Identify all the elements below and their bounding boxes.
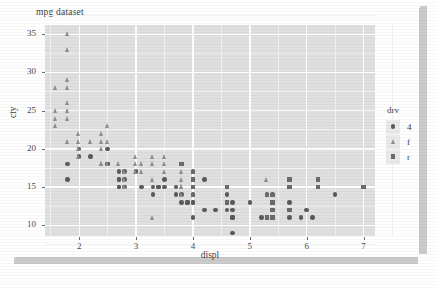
data-point [151, 192, 156, 197]
data-point [162, 161, 166, 166]
data-point [202, 177, 207, 182]
data-point [65, 139, 69, 144]
legend-key-circle-icon [386, 120, 400, 134]
x-axis-title: displ [45, 250, 375, 260]
data-point [270, 193, 274, 197]
x-tick-mark [364, 237, 365, 240]
x-tick-mark [136, 237, 137, 240]
data-point [191, 215, 196, 220]
data-point [99, 139, 103, 144]
data-point [65, 47, 69, 52]
y-tick-mark [42, 72, 45, 73]
data-point [225, 208, 230, 213]
legend-entry-4[interactable]: 4 [386, 119, 430, 134]
legend-entry-f[interactable]: f [386, 134, 430, 149]
data-point [117, 177, 122, 182]
data-point [179, 162, 183, 166]
y-gridline-major [45, 186, 375, 187]
x-tick-mark [307, 237, 308, 240]
data-point [133, 154, 137, 159]
data-point [191, 185, 195, 189]
data-point [185, 200, 190, 205]
data-point [230, 200, 235, 205]
x-gridline-minor [221, 25, 222, 236]
data-point [88, 154, 93, 159]
data-point [65, 77, 69, 82]
data-point [287, 208, 291, 212]
y-tick-label: 35 [18, 28, 36, 38]
data-point [174, 192, 179, 197]
data-point [139, 169, 143, 174]
data-point [230, 231, 235, 236]
data-point [162, 185, 167, 190]
data-point [53, 123, 57, 128]
data-point [65, 31, 69, 36]
data-point [265, 215, 269, 219]
x-gridline-minor [278, 25, 279, 236]
data-point [316, 177, 320, 181]
data-point [65, 108, 69, 113]
y-tick-label: 30 [18, 66, 36, 76]
data-point [248, 200, 253, 205]
legend-key-triangle-icon [386, 135, 400, 149]
y-gridline-minor [45, 15, 375, 16]
data-point [122, 169, 126, 174]
data-point [105, 147, 110, 152]
data-point [270, 215, 274, 219]
data-point [99, 146, 103, 151]
data-point [162, 169, 166, 174]
data-point [65, 162, 70, 167]
data-point [191, 200, 196, 205]
y-gridline-minor [45, 244, 375, 245]
data-point [270, 200, 274, 204]
data-point [179, 184, 183, 189]
data-point [287, 215, 292, 220]
data-point [174, 185, 179, 190]
data-point [76, 146, 80, 151]
y-gridline-major [45, 110, 375, 111]
data-point [225, 200, 229, 204]
data-point [191, 170, 195, 174]
data-point [150, 161, 154, 166]
data-point [162, 177, 167, 182]
y-gridline-minor [45, 206, 375, 207]
y-tick-mark [42, 149, 45, 150]
data-point [76, 154, 80, 159]
data-point [287, 177, 291, 181]
data-point [333, 192, 338, 197]
legend-label: f [407, 137, 410, 147]
x-gridline-minor [164, 25, 165, 236]
y-gridline-major [45, 72, 375, 73]
x-gridline-major [135, 25, 136, 236]
legend-glyph [391, 124, 396, 129]
data-point [150, 215, 154, 220]
data-point [53, 108, 57, 113]
legend: drv 4fr [386, 105, 430, 164]
legend-entries: 4fr [386, 119, 430, 164]
data-point [150, 154, 154, 159]
legend-entry-r[interactable]: r [386, 149, 430, 164]
y-gridline-major [45, 225, 375, 226]
data-point [53, 116, 57, 121]
data-point [265, 193, 269, 197]
legend-glyph [391, 139, 395, 144]
y-gridline-minor [45, 91, 375, 92]
data-point [225, 192, 230, 197]
data-point [230, 208, 235, 213]
data-point [225, 185, 229, 189]
data-point [287, 200, 292, 205]
data-point [259, 215, 264, 220]
y-tick-mark [42, 111, 45, 112]
y-tick-mark [42, 187, 45, 188]
data-point [150, 177, 154, 182]
data-point [179, 200, 184, 205]
y-tick-label: 10 [18, 219, 36, 229]
y-axis-title: cty [8, 106, 18, 118]
chart-figure: mpg dataset 101520253035 234567 displ ct… [0, 0, 436, 288]
data-point [116, 161, 120, 166]
data-point [76, 139, 80, 144]
plot-panel [45, 25, 375, 236]
data-point [99, 161, 103, 166]
data-point [105, 123, 109, 128]
x-gridline-minor [107, 25, 108, 236]
